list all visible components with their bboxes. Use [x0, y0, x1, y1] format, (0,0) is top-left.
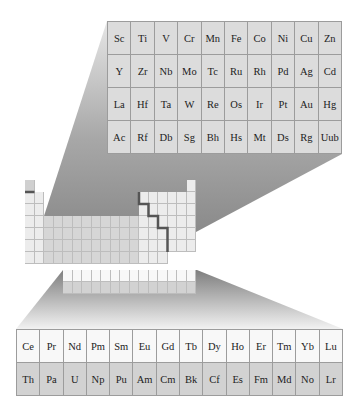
element-cell: W [178, 88, 201, 121]
element-cell: Ni [271, 22, 294, 55]
periodic-table-diagram: Sc Ti V Cr Mn Fe Co Ni Cu Zn Y Zr Nb Mo … [0, 0, 361, 415]
element-cell: Mt [248, 121, 271, 154]
element-cell: Hs [224, 121, 247, 154]
element-cell: Db [154, 121, 177, 154]
element-cell: Th [17, 363, 40, 396]
element-cell: Pa [40, 363, 63, 396]
table-row: La Hf Ta W Re Os Ir Pt Au Hg [108, 88, 342, 121]
element-cell: Cd [318, 55, 341, 88]
element-cell: Pt [271, 88, 294, 121]
element-cell: Hg [318, 88, 341, 121]
element-cell: Rh [248, 55, 271, 88]
element-cell: Lr [319, 363, 342, 396]
element-cell: U [63, 363, 86, 396]
element-cell: Am [133, 363, 156, 396]
element-cell: Sc [108, 22, 131, 55]
element-cell: Mn [201, 22, 224, 55]
element-cell: Sm [110, 330, 133, 363]
element-cell: Ru [224, 55, 247, 88]
element-cell: Tb [179, 330, 202, 363]
element-cell: Ce [17, 330, 40, 363]
d-block-zoom-table: Sc Ti V Cr Mn Fe Co Ni Cu Zn Y Zr Nb Mo … [107, 21, 342, 154]
element-cell: Hf [131, 88, 154, 121]
element-cell: Zn [318, 22, 341, 55]
element-cell: Pr [40, 330, 63, 363]
element-cell: Yb [296, 330, 319, 363]
element-cell: Pd [271, 55, 294, 88]
element-cell: Np [86, 363, 109, 396]
element-cell: Tc [201, 55, 224, 88]
element-cell: Er [249, 330, 272, 363]
element-cell: Bk [179, 363, 202, 396]
element-cell: Co [248, 22, 271, 55]
element-cell: Uub [318, 121, 341, 154]
element-cell: Ac [108, 121, 131, 154]
element-cell: Cm [156, 363, 179, 396]
element-cell: Ds [271, 121, 294, 154]
element-cell: Mo [178, 55, 201, 88]
element-cell: Cr [178, 22, 201, 55]
lanthanide-row: Ce Pr Nd Pm Sm Eu Gd Tb Dy Ho Er Tm Yb L… [17, 330, 343, 363]
element-cell: Pm [86, 330, 109, 363]
element-cell: Au [295, 88, 318, 121]
table-row: Y Zr Nb Mo Tc Ru Rh Pd Ag Cd [108, 55, 342, 88]
element-cell: Md [273, 363, 296, 396]
table-row: Sc Ti V Cr Mn Fe Co Ni Cu Zn [108, 22, 342, 55]
metal-nonmetal-staircase-line [139, 192, 168, 252]
element-cell: V [154, 22, 177, 55]
element-cell: Fe [224, 22, 247, 55]
element-cell: Fm [249, 363, 272, 396]
element-cell: Pu [110, 363, 133, 396]
element-cell: Sg [178, 121, 201, 154]
f-block-zoom-table: Ce Pr Nd Pm Sm Eu Gd Tb Dy Ho Er Tm Yb L… [16, 329, 343, 396]
element-cell: Bh [201, 121, 224, 154]
element-cell: Ti [131, 22, 154, 55]
element-cell: Ta [154, 88, 177, 121]
element-cell: La [108, 88, 131, 121]
element-cell: Cf [203, 363, 226, 396]
element-cell: Eu [133, 330, 156, 363]
element-cell: Dy [203, 330, 226, 363]
element-cell: Y [108, 55, 131, 88]
element-cell: Rf [131, 121, 154, 154]
element-cell: Tm [273, 330, 296, 363]
element-cell: Rg [295, 121, 318, 154]
element-cell: No [296, 363, 319, 396]
element-cell: Ag [295, 55, 318, 88]
element-cell: Lu [319, 330, 342, 363]
table-row: Ac Rf Db Sg Bh Hs Mt Ds Rg Uub [108, 121, 342, 154]
element-cell: Zr [131, 55, 154, 88]
element-cell: Re [201, 88, 224, 121]
actinide-row: Th Pa U Np Pu Am Cm Bk Cf Es Fm Md No Lr [17, 363, 343, 396]
element-cell: Gd [156, 330, 179, 363]
element-cell: Es [226, 363, 249, 396]
element-cell: Ir [248, 88, 271, 121]
element-cell: Ho [226, 330, 249, 363]
element-cell: Nd [63, 330, 86, 363]
element-cell: Os [224, 88, 247, 121]
element-cell: Nb [154, 55, 177, 88]
element-cell: Cu [295, 22, 318, 55]
